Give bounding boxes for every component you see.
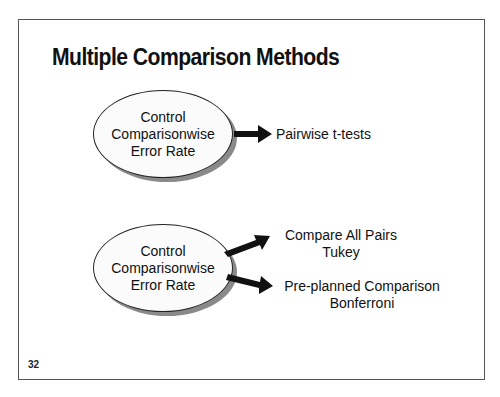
arrow-icon: [234, 125, 272, 143]
arrow-icon: [226, 274, 273, 294]
target-line: Pairwise t-tests: [276, 126, 371, 143]
target-line: Compare All Pairs: [274, 227, 408, 244]
target-tukey: Compare All Pairs Tukey: [274, 227, 408, 261]
page-number: 32: [28, 359, 39, 370]
target-line: Bonferroni: [276, 295, 448, 312]
target-bonferroni: Pre-planned Comparison Bonferroni: [276, 278, 448, 312]
target-line: Tukey: [274, 244, 408, 261]
arrow-icon: [224, 235, 270, 257]
arrows-layer: [0, 0, 500, 397]
target-line: Pre-planned Comparison: [276, 278, 448, 295]
target-pairwise-t-tests: Pairwise t-tests: [276, 126, 371, 143]
